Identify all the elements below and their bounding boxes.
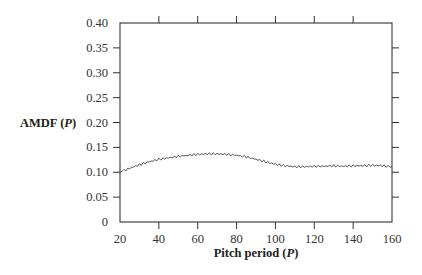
x-tick-label: 20 [114, 232, 127, 246]
x-tick-label: 80 [230, 232, 243, 246]
y-tick-label: 0.25 [86, 91, 108, 105]
x-tick-label: 120 [305, 232, 324, 246]
plot-frame [120, 23, 392, 222]
x-tick-label: 160 [383, 232, 402, 246]
amdf-chart: 00.050.100.150.200.250.300.350.40 204060… [0, 0, 422, 275]
x-axis-title: Pitch period (P) [214, 246, 299, 260]
y-tick-label: 0.20 [86, 116, 108, 130]
amdf-curve [120, 153, 392, 173]
x-tick-label: 140 [344, 232, 363, 246]
y-tick-label: 0.15 [86, 140, 108, 154]
y-tick-labels: 00.050.100.150.200.250.300.350.40 [86, 16, 108, 229]
x-tick-label: 40 [153, 232, 166, 246]
axis-ticks [113, 16, 399, 229]
y-tick-label: 0.30 [86, 66, 108, 80]
y-axis-title: AMDF (P) [20, 116, 76, 130]
plot-border [120, 23, 392, 222]
x-tick-label: 60 [191, 232, 204, 246]
y-tick-label: 0.05 [86, 190, 108, 204]
x-tick-label: 100 [266, 232, 285, 246]
y-tick-label: 0.10 [86, 165, 108, 179]
x-tick-labels: 20406080100120140160 [114, 232, 402, 246]
y-tick-label: 0.35 [86, 41, 108, 55]
y-tick-label: 0.40 [86, 16, 108, 30]
y-tick-label: 0 [102, 215, 108, 229]
